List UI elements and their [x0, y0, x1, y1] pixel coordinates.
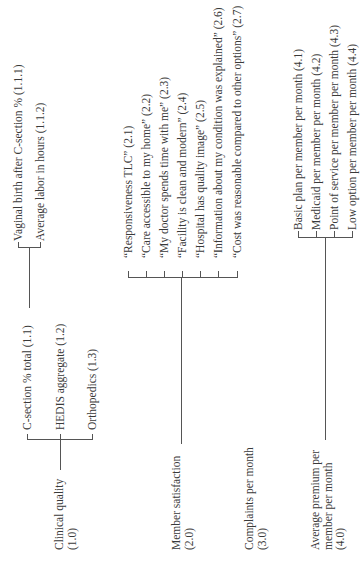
- node-2-3-label: “My doctor spends time with me” (2.3): [158, 77, 170, 258]
- node-1-1-label: C-section % total (1.1): [21, 325, 33, 430]
- connector-1-1-stem: [29, 248, 30, 308]
- node-3-0-number: (3.0): [256, 447, 269, 550]
- node-2-2-label: “Care accessible to my home” (2.2): [140, 94, 152, 258]
- tick-4-1: [298, 231, 299, 238]
- hierarchy-diagram: Clinical quality (1.0) C-section % total…: [0, 0, 362, 570]
- tick-1-1-2: [40, 242, 41, 248]
- tick-1-1: [27, 434, 28, 440]
- tick-2-5: [200, 271, 201, 278]
- tick-1-2: [60, 434, 61, 440]
- node-2-7-label: “Cost was reasonable compared to other o…: [231, 6, 243, 258]
- tick-2-7: [237, 271, 238, 278]
- node-4-0-label: Average premium per member per month (4.…: [309, 450, 347, 550]
- node-4-0-number: (4.0): [334, 450, 347, 550]
- bracket-4-x: [298, 237, 353, 238]
- node-2-5-label: “Hospital has quality image” (2.5): [194, 100, 206, 258]
- node-1-1-1-label: Vaginal birth after C-section % (1.1.1): [12, 64, 24, 241]
- connector-1-0-stem: [60, 440, 61, 470]
- node-4-4-label: Low option per member per month (4.4): [346, 44, 358, 230]
- node-2-4-label: “Facility is clean and modern” (2.4): [176, 93, 188, 258]
- tick-1-3: [92, 434, 93, 440]
- node-2-0-label: Member satisfaction (2.0): [170, 456, 195, 550]
- node-3-0-label: Complaints per month (3.0): [243, 447, 268, 550]
- node-4-1-label: Basic plan per member per month (4.1): [292, 49, 304, 230]
- node-4-0-title-line1: Average premium per: [309, 450, 322, 550]
- tick-2-3: [164, 271, 165, 278]
- connector-2-0-stem: [181, 278, 182, 444]
- bracket-1-1-x: [18, 247, 41, 248]
- node-1-2-label: HEDIS aggregate (1.2): [54, 324, 66, 430]
- tick-4-3: [334, 231, 335, 238]
- connector-4-0-stem: [325, 238, 326, 440]
- tick-2-6: [218, 271, 219, 278]
- node-1-1-2-label: Average labor in hours (1.1.2): [34, 103, 46, 241]
- tick-2-4: [182, 271, 183, 278]
- tick-4-4: [352, 231, 353, 238]
- node-1-0-number: (1.0): [66, 479, 79, 550]
- node-2-0-title: Member satisfaction: [170, 456, 183, 550]
- node-1-3-label: Orthopedics (1.3): [86, 349, 98, 430]
- tick-1-1-1: [18, 242, 19, 248]
- bracket-2-x: [128, 277, 238, 278]
- node-1-0-title: Clinical quality: [53, 479, 66, 550]
- node-4-2-label: Medicaid per member per month (4.2): [310, 54, 322, 230]
- tick-2-1: [128, 271, 129, 278]
- node-4-3-label: Point of service per member per month (4…: [328, 25, 340, 230]
- tick-4-2: [316, 231, 317, 238]
- node-4-0-title-line2: member per month: [322, 450, 335, 550]
- node-3-0-title: Complaints per month: [243, 447, 256, 550]
- node-2-1-label: “Responsiveness TLC” (2.1): [122, 126, 134, 258]
- tick-2-2: [146, 271, 147, 278]
- node-2-0-number: (2.0): [183, 456, 196, 550]
- node-2-6-label: “Information about my condition was expl…: [212, 7, 224, 258]
- node-1-0-label: Clinical quality (1.0): [53, 479, 78, 550]
